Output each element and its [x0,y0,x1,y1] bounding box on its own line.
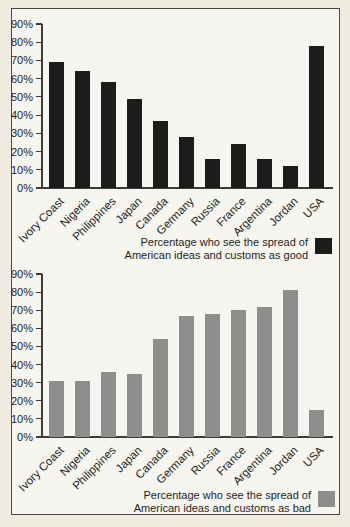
legend-good-line2: American ideas and customs as good [125,249,308,262]
legend-good: Percentage who see the spread of America… [125,236,332,261]
legend-bad-line1: Percentage who see the spread of [134,489,311,502]
legend-bad-line2: American ideas and customs as bad [134,502,311,515]
legend-text-bad: Percentage who see the spread of America… [134,489,311,514]
legend-text-good: Percentage who see the spread of America… [125,236,308,261]
chart-panel [11,8,340,515]
figure: 0%10%20%30%40%50%60%70%80%90%Ivory Coast… [0,0,350,527]
legend-swatch-good [315,238,332,254]
legend-bad: Percentage who see the spread of America… [134,489,335,514]
legend-good-line1: Percentage who see the spread of [125,236,308,249]
legend-swatch-bad [318,491,335,507]
